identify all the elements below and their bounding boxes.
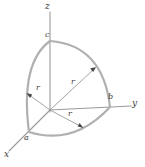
- radius-label-lower: r: [68, 110, 72, 118]
- radius-label-left: r: [36, 84, 40, 92]
- y-axis-line: [50, 106, 131, 110]
- x-axis-label: x: [4, 150, 9, 159]
- radius-line-lower: [50, 110, 81, 127]
- y-axis-label: y: [132, 99, 137, 108]
- spherical-octant-figure: z y x c b a r r r: [0, 0, 145, 167]
- point-label-a: a: [24, 134, 29, 142]
- radius-label-upper: r: [71, 78, 75, 86]
- z-axis-label: z: [45, 2, 50, 11]
- arc-c-to-b: [50, 41, 110, 107]
- point-label-c: c: [45, 31, 49, 39]
- point-label-b: b: [108, 93, 113, 101]
- radius-line-upper: [50, 70, 94, 111]
- radius-line-left: [29, 95, 51, 111]
- radius-arrowhead-lower: [78, 123, 84, 128]
